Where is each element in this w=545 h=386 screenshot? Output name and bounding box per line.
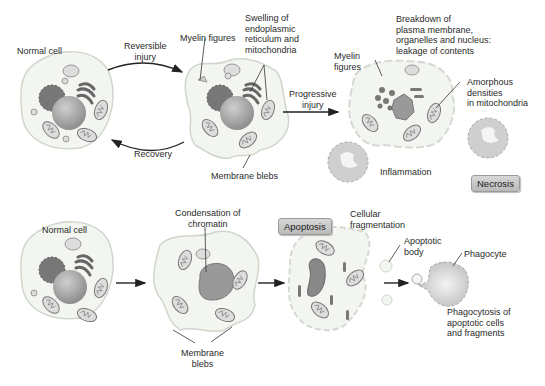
fragmenting-cell <box>289 227 369 330</box>
phagocyte-label: Phagocyte <box>464 249 507 260</box>
myelin-figures-label: Myelin figures <box>180 33 236 44</box>
necrosis-badge: Necrosis <box>471 175 520 192</box>
swelling-label: Swelling of endoplasmic reticulum and mi… <box>245 13 299 55</box>
normal-cell-label-top: Normal cell <box>17 46 62 57</box>
condensation-label: Condensation of chromatin <box>175 208 241 229</box>
recovery-label: Recovery <box>134 149 172 160</box>
normal-cell-label-bottom: Normal cell <box>42 225 87 236</box>
apoptotic-bodies <box>380 245 400 305</box>
necrotic-cell <box>349 60 460 147</box>
inflammatory-cell-left <box>328 142 368 182</box>
condensing-cell <box>154 227 259 343</box>
apoptotic-body-label: Apoptotic body <box>404 236 442 257</box>
inflammatory-cell-right <box>468 118 508 158</box>
apoptosis-badge: Apoptosis <box>278 218 332 235</box>
progressive-injury-label: Progressive injury <box>289 89 337 110</box>
breakdown-label: Breakdown of plasma membrane, organelles… <box>396 14 491 56</box>
reversible-arrow <box>108 63 182 72</box>
swollen-cell <box>185 38 288 168</box>
reversible-injury-label: Reversible injury <box>124 41 167 62</box>
membrane-blebs-label-top: Membrane blebs <box>211 171 278 182</box>
normal-cell-bottom <box>21 222 113 324</box>
cellular-fragmentation-label: Cellular fragmentation <box>350 209 405 230</box>
normal-cell-top <box>21 52 113 149</box>
phagocytosis-label: Phagocytosis of apoptotic cells and frag… <box>447 307 511 339</box>
phagocyte-cell <box>412 253 468 306</box>
membrane-blebs-label-bottom: Membrane blebs <box>181 348 224 369</box>
inflammation-label: Inflammation <box>380 167 432 178</box>
myelin-figures-label-2: Myelin figures <box>334 51 361 72</box>
amorphous-densities-label: Amorphous densities in mitochondria <box>467 77 528 109</box>
